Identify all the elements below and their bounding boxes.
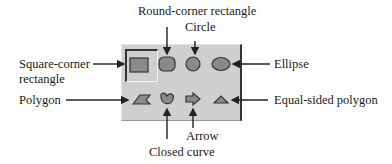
label-equal-sided-polygon: Equal-sided polygon	[274, 93, 378, 107]
leader-lines	[66, 27, 270, 139]
label-square-corner-rectangle-line1: Square-corner	[19, 57, 90, 71]
label-arrow: Arrow	[186, 129, 219, 143]
circle-tool[interactable]	[186, 57, 200, 71]
ellipse-tool[interactable]	[212, 58, 230, 71]
label-closed-curve: Closed curve	[149, 145, 215, 159]
arrow-tool[interactable]	[186, 93, 200, 105]
label-round-corner-rectangle: Round-corner rectangle	[138, 4, 256, 18]
polygon-tool[interactable]	[133, 95, 150, 104]
label-square-corner-rectangle-line2: rectangle	[19, 72, 65, 86]
square-corner-rectangle-tool[interactable]	[130, 58, 148, 72]
label-circle: Circle	[185, 20, 216, 34]
round-corner-rectangle-tool[interactable]	[159, 57, 175, 71]
closed-curve-tool[interactable]	[161, 93, 174, 104]
label-polygon: Polygon	[19, 93, 61, 107]
equal-sided-polygon-tool[interactable]	[214, 96, 228, 103]
label-ellipse: Ellipse	[274, 57, 309, 71]
